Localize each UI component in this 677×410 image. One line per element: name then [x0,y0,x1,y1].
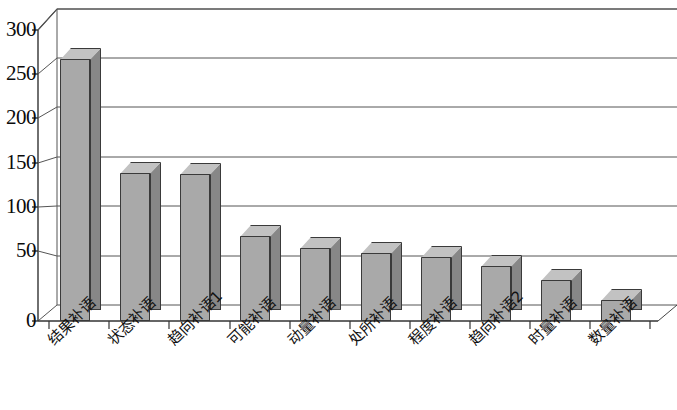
x-label-4: 可能补语 [225,295,279,349]
x-label-3: 趋向补语1 [165,288,225,348]
bar-chart: 300 250 200 150 100 50 0 结果补语状态补语趋向补语1可能… [0,0,677,410]
x-label-10: 数量补语 [586,295,640,349]
x-label-9: 时量补语 [526,295,580,349]
x-axis-category-labels: 结果补语状态补语趋向补语1可能补语动量补语处所补语程度补语趋向补语2时量补语数量… [0,0,677,410]
x-label-6: 处所补语 [346,295,400,349]
x-label-5: 动量补语 [285,295,339,349]
x-label-2: 状态补语 [105,295,159,349]
x-label-8: 趋向补语2 [466,288,526,348]
x-label-1: 结果补语 [45,295,99,349]
x-label-7: 程度补语 [406,295,460,349]
